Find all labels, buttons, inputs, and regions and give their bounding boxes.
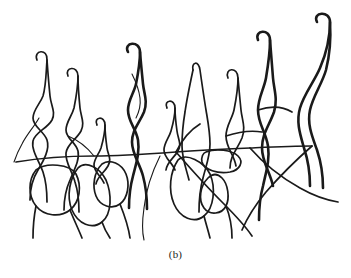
figure-caption: (b) <box>0 247 351 261</box>
line-drawing <box>0 0 351 278</box>
figure-background <box>0 0 351 278</box>
figure-container: (b) <box>0 0 351 278</box>
